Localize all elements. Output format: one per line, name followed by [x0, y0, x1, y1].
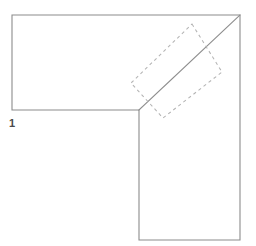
l-shape-outline: [12, 15, 240, 240]
figure-number-label: 1: [9, 118, 15, 129]
geometry-diagram: [0, 0, 256, 246]
diagonal-fold-line: [139, 15, 240, 110]
dashed-rotated-rectangle: [131, 24, 222, 118]
figure-canvas: 1: [0, 0, 256, 246]
